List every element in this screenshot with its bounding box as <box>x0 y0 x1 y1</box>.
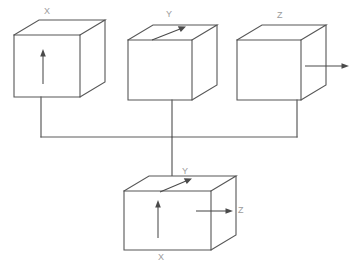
cube-x <box>14 20 105 97</box>
connector-bus <box>41 97 297 186</box>
cube-xyz-label-z: Z <box>238 206 244 215</box>
cube-z <box>237 25 349 100</box>
cube-y <box>128 25 217 100</box>
cube-z-label: Z <box>277 11 283 20</box>
diagram-canvas: X Y Z Y Z X <box>0 0 357 267</box>
diagram-graphics <box>0 0 357 267</box>
cube-xyz-label-y: Y <box>182 167 188 176</box>
cube-xyz <box>124 176 236 250</box>
cube-x-label: X <box>44 7 50 16</box>
cube-y-label: Y <box>166 10 172 19</box>
cube-xyz-label-x: X <box>158 253 164 262</box>
